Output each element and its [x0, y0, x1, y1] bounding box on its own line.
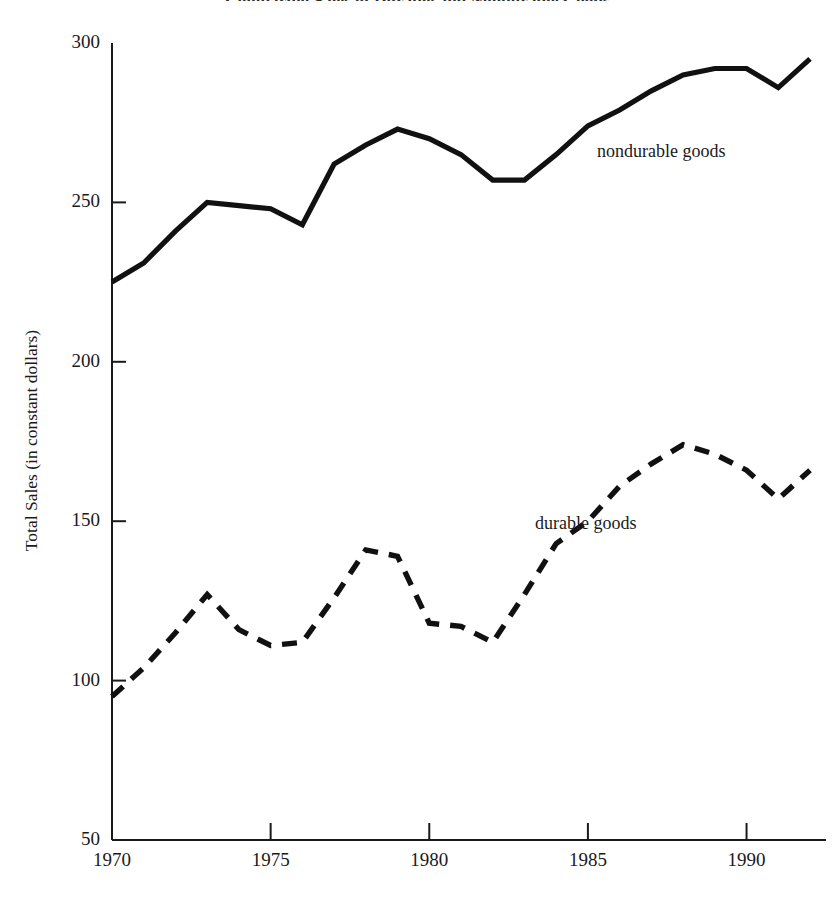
x-axis-tick-label: 1975	[226, 850, 316, 869]
series-line-durable-goods	[112, 445, 810, 697]
chart-figure: Comparing Sales of Durable and Nondurabl…	[0, 0, 835, 909]
series-label-nondurable-goods: nondurable goods	[597, 141, 725, 162]
y-axis-tick-label: 50	[42, 829, 100, 848]
x-axis-tick-label: 1980	[384, 850, 474, 869]
series-label-durable-goods: durable goods	[535, 513, 636, 534]
x-axis-tick-label: 1970	[67, 850, 157, 869]
y-axis-tick-label: 200	[42, 351, 100, 370]
y-axis-label: Total Sales (in constant dollars)	[21, 281, 42, 601]
x-axis-tick-label: 1990	[702, 850, 792, 869]
series-line-nondurable-goods	[112, 59, 810, 282]
y-axis-tick-label: 100	[42, 670, 100, 689]
y-axis-tick-label: 250	[42, 191, 100, 210]
x-axis-tick-label: 1985	[543, 850, 633, 869]
chart-title: Comparing Sales of Durable and Nondurabl…	[0, 0, 835, 1]
plot-area	[0, 0, 835, 909]
y-axis-tick-label: 150	[42, 510, 100, 529]
y-axis-tick-label: 300	[42, 32, 100, 51]
x-axis-ticks	[271, 823, 747, 840]
